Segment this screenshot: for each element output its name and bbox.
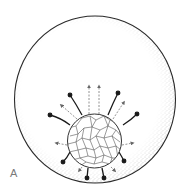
panel-label: A xyxy=(10,167,17,179)
cell-diagram xyxy=(0,0,190,188)
inner-cell-mass xyxy=(68,114,122,168)
